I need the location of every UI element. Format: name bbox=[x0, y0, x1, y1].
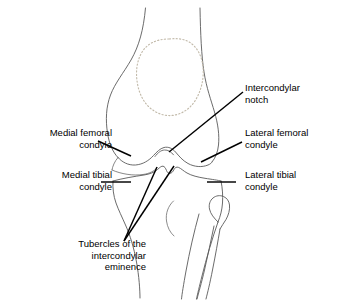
label-lateral-tibial-condyle: Lateral tibial condyle bbox=[245, 169, 337, 192]
fibula-outline bbox=[182, 196, 230, 299]
label-intercondylar-notch: Intercondylar notch bbox=[245, 82, 337, 105]
label-medial-tibial-condyle: Medial tibial condyle bbox=[8, 169, 112, 192]
anatomy-figure-canvas: Intercondylar notch Medial femoral condy… bbox=[0, 0, 339, 301]
label-medial-femoral-condyle: Medial femoral condyle bbox=[8, 127, 112, 150]
femoral-articular-margin bbox=[112, 158, 157, 175]
label-lateral-femoral-condyle: Lateral femoral condyle bbox=[245, 127, 337, 150]
label-tubercles-of-intercondylar-eminence: Tubercles of the intercondylar eminence bbox=[22, 238, 146, 273]
leader-intercondylar-notch bbox=[169, 92, 243, 152]
leader-lines bbox=[98, 92, 243, 241]
leader-tubercle-medial bbox=[124, 167, 157, 241]
tibial-tuberosity-detail bbox=[166, 201, 174, 236]
patella-outline-dotted bbox=[137, 39, 204, 116]
leader-lateral-femoral-condyle bbox=[201, 142, 242, 162]
